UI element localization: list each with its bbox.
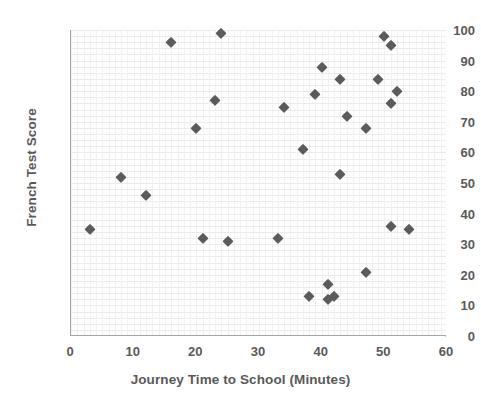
data-point (298, 144, 309, 155)
data-point (166, 37, 177, 48)
y-tick-label: 70 (419, 114, 481, 129)
data-point (197, 233, 208, 244)
data-point (335, 169, 346, 180)
data-point (385, 40, 396, 51)
data-point (316, 61, 327, 72)
data-point (222, 236, 233, 247)
y-axis-title: French Test Score (24, 58, 39, 278)
data-point (404, 224, 415, 235)
x-tick-label: 50 (361, 344, 405, 359)
y-tick-label: 30 (419, 237, 481, 252)
x-tick-label: 20 (173, 344, 217, 359)
y-tick-label: 0 (419, 329, 481, 344)
x-tick-label: 30 (236, 344, 280, 359)
y-tick-label: 10 (419, 298, 481, 313)
data-point (379, 31, 390, 42)
y-tick-label: 20 (419, 267, 481, 282)
y-tick-label: 60 (419, 145, 481, 160)
data-point (141, 190, 152, 201)
x-tick-label: 10 (111, 344, 155, 359)
data-point (272, 233, 283, 244)
data-point (323, 279, 334, 290)
x-tick-label: 60 (424, 344, 468, 359)
y-tick-label: 40 (419, 206, 481, 221)
data-point (84, 224, 95, 235)
data-point (392, 86, 403, 97)
x-axis-title: Journey Time to School (Minutes) (0, 372, 481, 387)
data-point (310, 89, 321, 100)
scatter-chart: French Test Score 0102030405060708090100… (0, 0, 481, 414)
data-point (210, 95, 221, 106)
data-point (373, 74, 384, 85)
data-point (116, 172, 127, 183)
data-point (191, 123, 202, 134)
y-tick-label: 50 (419, 176, 481, 191)
data-point (360, 266, 371, 277)
y-tick-label: 80 (419, 84, 481, 99)
y-tick-label: 90 (419, 53, 481, 68)
data-point (341, 110, 352, 121)
x-tick-label: 0 (48, 344, 92, 359)
data-point (360, 123, 371, 134)
data-point (216, 28, 227, 39)
y-tick-label: 100 (419, 23, 481, 38)
data-point (304, 291, 315, 302)
plot-area (70, 30, 446, 336)
data-point (335, 74, 346, 85)
data-point (385, 221, 396, 232)
data-point (385, 98, 396, 109)
x-tick-label: 40 (299, 344, 343, 359)
data-point (279, 101, 290, 112)
